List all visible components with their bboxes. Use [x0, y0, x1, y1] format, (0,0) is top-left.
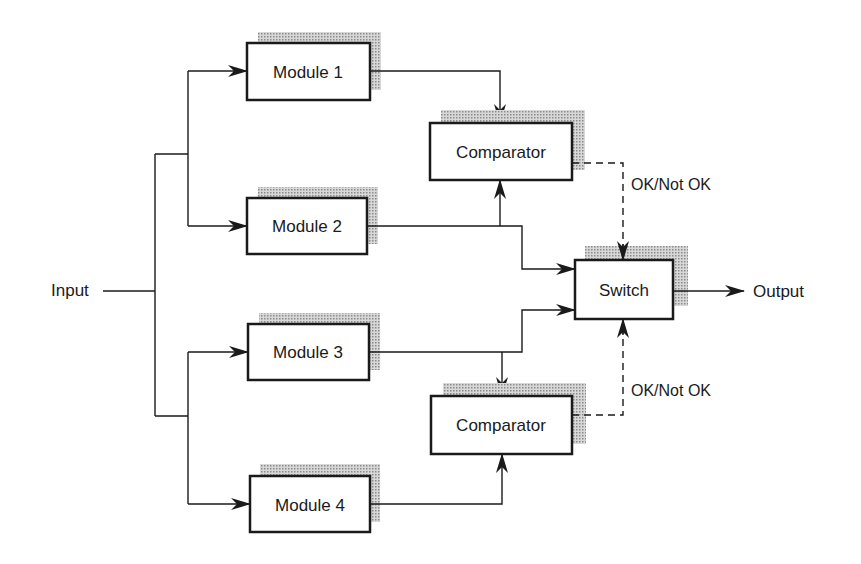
comparator-top-label: Comparator — [456, 143, 546, 162]
module-1-label: Module 1 — [273, 63, 343, 82]
module-1: Module 1 — [247, 32, 381, 100]
module-2: Module 2 — [247, 187, 378, 254]
switch-block: Switch — [575, 246, 688, 319]
comparator-top: Comparator — [430, 110, 585, 180]
comparator-bottom: Comparator — [431, 383, 586, 454]
comparator-bottom-label: Comparator — [456, 416, 546, 435]
module-2-label: Module 2 — [272, 217, 342, 236]
module3-to-switch — [369, 310, 575, 352]
module-4-label: Module 4 — [275, 496, 345, 515]
ok-signal-top-label: OK/Not OK — [631, 176, 711, 193]
output-label: Output — [753, 282, 804, 301]
ok-signal-top — [572, 163, 623, 250]
module-3-label: Module 3 — [273, 343, 343, 362]
ok-signal-bottom-label: OK/Not OK — [631, 382, 711, 399]
module-3: Module 3 — [248, 313, 380, 380]
module2-to-switch — [367, 226, 575, 269]
module-4: Module 4 — [250, 464, 380, 532]
redundancy-block-diagram: Input Module 1 Module 2 Module 3 Module … — [0, 0, 861, 564]
module4-to-comparator-bottom — [370, 454, 502, 504]
switch-label: Switch — [599, 281, 649, 300]
input-label: Input — [51, 281, 89, 300]
